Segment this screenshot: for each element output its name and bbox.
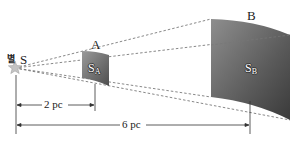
surface-b-area-label: SB	[245, 62, 257, 76]
area-b-main: S	[245, 61, 252, 75]
star-korean-label: 별	[7, 55, 15, 64]
area-a-sub: A	[95, 67, 101, 76]
distance-label-6pc: 6 pc	[120, 119, 143, 130]
surface-b-label: B	[247, 9, 256, 22]
distance-label-2pc: 2 pc	[42, 99, 65, 110]
inverse-square-law-diagram: 별 S A SA B SB 2 pc 6 pc	[0, 0, 294, 142]
area-a-main: S	[88, 61, 95, 75]
surface-a-area-label: SA	[88, 62, 100, 76]
surface-a-label: A	[91, 38, 100, 51]
area-b-sub: B	[252, 67, 257, 76]
source-label: S	[20, 53, 27, 66]
